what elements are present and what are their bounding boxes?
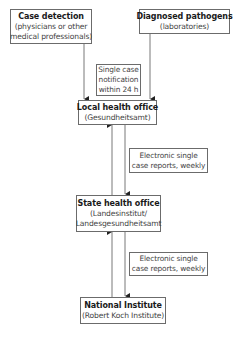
- state-health-office-sub2: Landesgesundheitsamt: [76, 219, 162, 229]
- electronic-reports-note-2: Electronic single case reports, weekly: [129, 252, 208, 276]
- case-detection-sub1: (physicians or other: [15, 22, 88, 32]
- state-health-office-node: State health office (Landesinstitut/ Lan…: [76, 195, 161, 232]
- state-health-office-sub1: (Landesinstitut/: [90, 209, 147, 219]
- diagnosed-pathogens-title: Diagnosed pathogens: [136, 12, 232, 22]
- electronic-2-line1: Electronic single: [139, 254, 197, 264]
- electronic-1-line1: Electronic single: [139, 151, 197, 161]
- case-detection-title: Case detection: [18, 12, 84, 22]
- local-health-office-title: Local health office: [77, 103, 158, 113]
- national-institute-node: National Institute (Robert Koch Institut…: [80, 297, 166, 324]
- single-case-line2: notification: [99, 75, 139, 85]
- national-institute-sub1: (Robert Koch Institute): [82, 311, 164, 321]
- local-health-office-node: Local health office (Gesundheitsamt): [78, 100, 157, 125]
- diagnosed-pathogens-node: Diagnosed pathogens (laboratories): [139, 9, 230, 34]
- single-case-note: Single case notification within 24 h: [96, 64, 141, 96]
- electronic-1-line2: case reports, weekly: [132, 161, 205, 171]
- electronic-2-line2: case reports, weekly: [132, 264, 205, 274]
- single-case-line1: Single case: [98, 65, 138, 75]
- single-case-line3: within 24 h: [99, 85, 139, 95]
- case-detection-node: Case detection (physicians or other medi…: [10, 9, 92, 44]
- case-detection-sub2: medical professionals): [10, 32, 92, 42]
- national-institute-title: National Institute: [84, 301, 162, 311]
- state-health-office-title: State health office: [77, 199, 159, 209]
- electronic-reports-note-1: Electronic single case reports, weekly: [129, 148, 208, 173]
- diagnosed-pathogens-sub1: (laboratories): [160, 22, 209, 32]
- local-health-office-sub1: (Gesundheitsamt): [84, 113, 150, 123]
